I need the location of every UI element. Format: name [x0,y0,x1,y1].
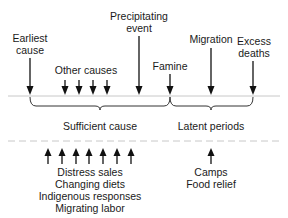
migration-label: Migration [184,33,238,45]
sufficient-cause-brace [30,97,170,110]
indigenous-responses-label: Indigenous responses [30,190,150,202]
earliest-cause-line1: Earliest [6,32,54,44]
famine-label: Famine [146,60,194,72]
responses-list: Distress sales Changing diets Indigenous… [30,166,150,214]
famine-arrow [167,74,174,95]
excess-deaths-line1: Excess [232,35,276,47]
responses-arrows [45,148,135,164]
relief-arrow [208,148,215,164]
earliest-cause-line2: cause [6,44,54,56]
migration-arrow [208,48,215,95]
migrating-labor-label: Migrating labor [30,202,150,214]
excess-deaths-arrow [250,61,257,95]
earliest-cause-arrow [27,58,34,95]
relief-list: Camps Food relief [178,166,244,190]
excess-deaths-line2: deaths [232,47,276,59]
latent-periods-label: Latent periods [176,120,246,132]
precipitating-event-label: Precipitating event [104,10,174,34]
changing-diets-label: Changing diets [30,178,150,190]
food-relief-label: Food relief [178,178,244,190]
sufficient-cause-label: Sufficient cause [50,120,150,132]
precipitating-event-line1: Precipitating [104,10,174,22]
precipitating-event-arrow [136,36,143,95]
other-causes-label: Other causes [46,64,126,76]
excess-deaths-label: Excess deaths [232,35,276,59]
other-causes-arrows [62,80,111,95]
earliest-cause-label: Earliest cause [6,32,54,56]
precipitating-event-line2: event [104,22,174,34]
camps-label: Camps [178,166,244,178]
distress-sales-label: Distress sales [30,166,150,178]
latent-periods-brace [170,97,253,110]
